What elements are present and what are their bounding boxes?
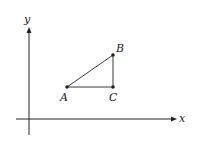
x-axis-label: x [179, 112, 186, 125]
diagram-svg: y x A B C [0, 0, 197, 146]
point-B [111, 53, 115, 57]
point-A [65, 85, 69, 89]
point-C-label: C [109, 91, 118, 104]
y-axis-label: y [23, 13, 31, 26]
y-axis-arrow-icon [27, 27, 32, 33]
coordinate-diagram: y x A B C [0, 0, 197, 146]
x-axis-arrow-icon [171, 117, 177, 122]
point-A-label: A [59, 91, 68, 104]
segment-AB [67, 55, 113, 87]
point-C [111, 85, 115, 89]
point-B-label: B [115, 42, 124, 55]
